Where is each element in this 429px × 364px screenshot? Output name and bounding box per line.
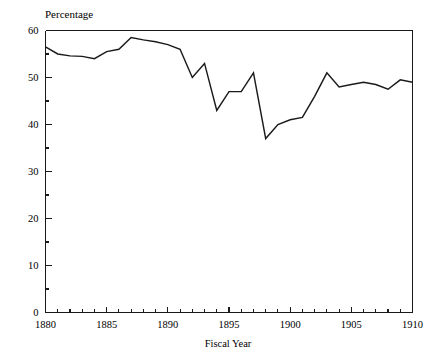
x-tick-label: 1900 (280, 319, 301, 330)
chart-title: Percentage (45, 8, 93, 20)
x-tick-label: 1905 (341, 319, 362, 330)
x-axis-title: Fiscal Year (205, 338, 252, 349)
y-tick-label: 60 (28, 25, 39, 36)
x-tick-label: 1885 (96, 319, 117, 330)
x-tick-label: 1910 (402, 319, 423, 330)
y-tick-label: 40 (28, 119, 39, 130)
x-tick-label: 1895 (219, 319, 240, 330)
x-axis-tick-labels: 1880188518901895190019051910 (35, 319, 423, 330)
y-tick-label: 30 (28, 166, 39, 177)
y-axis-tick-labels: 0102030405060 (28, 25, 39, 318)
y-tick-label: 50 (28, 72, 39, 83)
line-chart: Percentage 0102030405060 188018851890189… (0, 0, 429, 364)
axis-frame (46, 31, 413, 313)
x-tick-label: 1890 (157, 319, 178, 330)
y-tick-label: 0 (33, 307, 38, 318)
x-axis-tick-marks (46, 307, 413, 313)
y-axis-tick-marks (46, 31, 52, 313)
y-tick-label: 20 (28, 213, 39, 224)
y-tick-label: 10 (28, 260, 39, 271)
x-tick-label: 1880 (35, 319, 56, 330)
data-series-line (46, 38, 413, 139)
chart-container: Percentage 0102030405060 188018851890189… (0, 0, 429, 364)
